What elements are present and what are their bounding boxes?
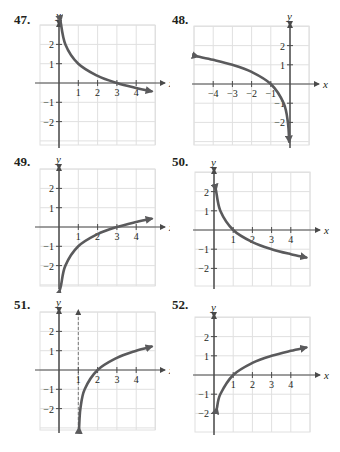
y-axis-label: y bbox=[210, 301, 216, 313]
y-tick-label: −1 bbox=[43, 384, 54, 395]
x-tick-label: 4 bbox=[134, 231, 139, 242]
y-tick-label: 2 bbox=[49, 326, 54, 337]
x-tick-label: 1 bbox=[76, 87, 81, 98]
graph-49: xy123421−1−2 bbox=[0, 143, 170, 293]
y-tick-label: 1 bbox=[49, 59, 54, 70]
x-axis-label: x bbox=[322, 78, 328, 90]
x-tick-label: −4 bbox=[208, 88, 219, 99]
y-tick-label: −2 bbox=[43, 404, 54, 415]
y-tick-label: 1 bbox=[49, 346, 54, 357]
y-tick-label: −1 bbox=[198, 389, 209, 400]
y-tick-label: −1 bbox=[198, 244, 209, 255]
y-axis-label: y bbox=[55, 296, 61, 308]
y-tick-label: −1 bbox=[43, 241, 54, 252]
graph-52: xy123421−1−2 bbox=[170, 287, 340, 437]
y-axis-label: y bbox=[286, 10, 292, 22]
graph-51: xy123421−1−2 bbox=[0, 287, 170, 437]
x-tick-label: 3 bbox=[114, 374, 119, 385]
x-tick-label: 4 bbox=[288, 379, 293, 390]
graph-47: xy123421−1−2 bbox=[0, 0, 170, 150]
x-tick-label: 3 bbox=[269, 234, 274, 245]
x-tick-label: 4 bbox=[134, 374, 139, 385]
y-tick-label: 1 bbox=[49, 203, 54, 214]
y-axis-label: y bbox=[55, 153, 61, 165]
y-tick-label: 2 bbox=[204, 187, 209, 198]
y-tick-label: 1 bbox=[204, 206, 209, 217]
x-tick-label: 2 bbox=[250, 379, 255, 390]
function-curve bbox=[60, 219, 152, 290]
x-tick-label: 2 bbox=[95, 374, 100, 385]
x-tick-label: 3 bbox=[269, 379, 274, 390]
function-curve bbox=[79, 347, 152, 428]
y-tick-label: −2 bbox=[43, 261, 54, 272]
function-curve bbox=[61, 21, 152, 91]
x-tick-label: 2 bbox=[95, 87, 100, 98]
x-tick-label: 1 bbox=[76, 231, 81, 242]
y-tick-label: 2 bbox=[204, 332, 209, 343]
function-curve bbox=[216, 190, 306, 258]
y-tick-label: −1 bbox=[43, 97, 54, 108]
y-axis-label: y bbox=[55, 9, 61, 21]
y-tick-label: 2 bbox=[49, 183, 54, 194]
y-tick-label: −2 bbox=[198, 263, 209, 274]
x-tick-label: 1 bbox=[231, 379, 236, 390]
y-tick-label: 1 bbox=[204, 351, 209, 362]
x-tick-label: −2 bbox=[246, 88, 257, 99]
x-axis-label: x bbox=[323, 224, 329, 236]
x-tick-label: 1 bbox=[231, 234, 236, 245]
x-tick-label: 1 bbox=[76, 374, 81, 385]
y-tick-label: 2 bbox=[49, 39, 54, 50]
graph-48: xy−4−3−2−121−1−2 bbox=[170, 0, 340, 150]
y-tick-label: 1 bbox=[280, 60, 285, 71]
x-tick-label: 3 bbox=[114, 231, 119, 242]
x-tick-label: −3 bbox=[227, 88, 238, 99]
y-tick-label: −2 bbox=[198, 408, 209, 419]
graph-50: xy123421−1−2 bbox=[170, 143, 340, 293]
y-tick-label: 2 bbox=[280, 41, 285, 52]
x-axis-label: x bbox=[323, 369, 329, 381]
y-tick-label: −2 bbox=[43, 117, 54, 128]
y-tick-label: −2 bbox=[274, 117, 285, 128]
y-axis-label: y bbox=[210, 156, 216, 168]
function-curve bbox=[217, 348, 306, 409]
x-tick-label: 3 bbox=[114, 87, 119, 98]
x-tick-label: 4 bbox=[288, 234, 293, 245]
